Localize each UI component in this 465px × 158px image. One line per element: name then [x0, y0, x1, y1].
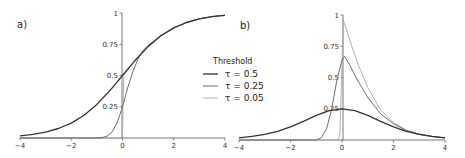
series-line-0.05: [20, 15, 225, 138]
y-tick-label: 1: [335, 12, 339, 20]
panel-b-label: b): [240, 20, 250, 31]
legend-label-tau-0.25: τ = 0.25: [225, 81, 264, 91]
x-tick-label: 2: [391, 144, 395, 152]
x-tick-label: 0: [120, 142, 124, 150]
x-tick-label: 4: [443, 144, 448, 152]
legend-title: Threshold: [212, 57, 252, 66]
x-tick-label: 2: [172, 142, 176, 150]
panel-b-plot: −4−20240.250.50.751: [234, 12, 448, 153]
y-tick-label: 0.75: [102, 41, 118, 49]
y-tick-label: 0.25: [102, 103, 118, 111]
x-tick-label: −4: [15, 142, 26, 150]
legend-label-tau-0.05: τ = 0.05: [225, 93, 264, 103]
y-tick-label: 0.75: [323, 43, 339, 51]
x-tick-label: −2: [285, 144, 295, 152]
x-tick-label: −4: [234, 144, 245, 152]
legend-label-tau-0.5: τ = 0.5: [225, 69, 258, 79]
x-tick-label: 0: [340, 144, 344, 152]
x-tick-label: −2: [66, 142, 76, 150]
series-line-0.05: [239, 19, 445, 140]
x-tick-label: 4: [223, 142, 228, 150]
panel-a-plot: −4−20240.250.50.751: [15, 10, 228, 151]
figure: −4−20240.250.50.751 −4−20240.250.50.751 …: [0, 0, 465, 158]
legend: Threshold τ = 0.5 τ = 0.25 τ = 0.05: [203, 57, 264, 103]
panel-a-label: a): [17, 19, 27, 30]
y-tick-label: 1: [114, 10, 118, 18]
y-tick-label: 0.5: [107, 72, 118, 80]
series-line-0.5: [239, 109, 445, 138]
